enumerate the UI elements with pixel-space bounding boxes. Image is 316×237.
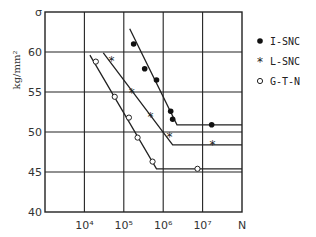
x-axis-ticks: 10⁴10⁵10⁶10⁷N [75, 219, 246, 232]
legend-label-l-snc: L-SNC [270, 56, 300, 67]
plot-grid [45, 12, 242, 212]
marker-g-t-n [150, 159, 155, 164]
legend-label-g-t-n: G-T-N [270, 76, 300, 87]
data-markers: ***** [93, 41, 215, 171]
y-axis-symbol: σ [35, 6, 42, 19]
x-axis-symbol: N [238, 219, 246, 232]
marker-g-t-n [126, 115, 131, 120]
legend-marker-i-snc-icon [257, 38, 263, 44]
legend-marker-g-t-n-icon [257, 78, 262, 83]
marker-g-t-n [112, 94, 117, 99]
marker-g-t-n [195, 166, 200, 171]
sn-fatigue-chart: ***** 4045505560σ 10⁴10⁵10⁶10⁷N kg/mm² I… [0, 0, 316, 237]
y-axis-ticks: 4045505560σ [28, 6, 42, 219]
x-tick-label: 10⁶ [154, 219, 173, 232]
y-tick-label: 60 [28, 46, 42, 59]
marker-l-snc: * [209, 138, 215, 152]
x-tick-label: 10⁴ [75, 219, 94, 232]
marker-g-t-n [135, 135, 140, 140]
marker-l-snc: * [148, 110, 154, 124]
marker-i-snc [170, 116, 176, 122]
marker-i-snc [168, 108, 174, 114]
marker-i-snc [142, 66, 148, 72]
marker-l-snc: * [167, 130, 173, 144]
marker-l-snc: * [129, 86, 135, 100]
marker-l-snc: * [109, 54, 115, 68]
plot-frame [45, 12, 242, 212]
x-tick-label: 10⁵ [115, 219, 133, 232]
legend: I-SNC*L-SNCG-T-N [257, 36, 300, 87]
y-tick-label: 55 [28, 86, 42, 99]
y-axis-label: kg/mm² [11, 51, 22, 90]
marker-i-snc [209, 122, 215, 128]
y-tick-label: 40 [28, 206, 42, 219]
legend-label-i-snc: I-SNC [270, 36, 300, 47]
marker-g-t-n [93, 59, 98, 64]
fit-line-g-t-n [90, 55, 242, 169]
marker-i-snc [131, 41, 137, 47]
y-tick-label: 50 [28, 126, 42, 139]
y-tick-label: 45 [28, 166, 42, 179]
marker-i-snc [154, 77, 160, 83]
x-tick-label: 10⁷ [193, 219, 211, 232]
legend-marker-l-snc-icon: * [257, 55, 263, 69]
